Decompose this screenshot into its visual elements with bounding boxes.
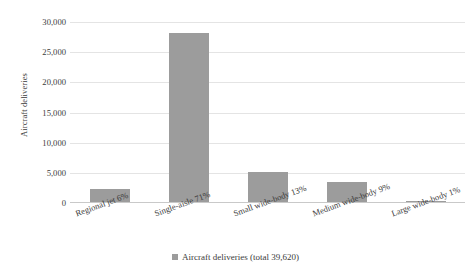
gridline [70,22,465,23]
gridline [70,52,465,53]
y-axis-tick-label: 30,000 [4,17,66,27]
gridline [70,143,465,144]
plot-area: 05,00010,00015,00020,00025,00030,000 [70,22,465,203]
legend-label: Aircraft deliveries (total 39,620) [182,252,299,262]
x-axis-tick-labels: Regional jet 6%Single-aisle 71%Small wid… [70,203,465,253]
bar [169,33,209,203]
gridline [70,82,465,83]
y-axis-tick-label: 0 [4,198,66,208]
y-axis-tick-label: 20,000 [4,77,66,87]
aircraft-deliveries-bar-chart: Aircraft deliveries 05,00010,00015,00020… [0,0,471,275]
gridline [70,113,465,114]
legend-color-swatch [172,254,178,260]
y-axis-tick-label: 5,000 [4,168,66,178]
y-axis-tick-label: 25,000 [4,47,66,57]
chart-legend: Aircraft deliveries (total 39,620) [0,252,471,262]
y-axis-tick-label: 10,000 [4,138,66,148]
y-axis-tick-label: 15,000 [4,108,66,118]
